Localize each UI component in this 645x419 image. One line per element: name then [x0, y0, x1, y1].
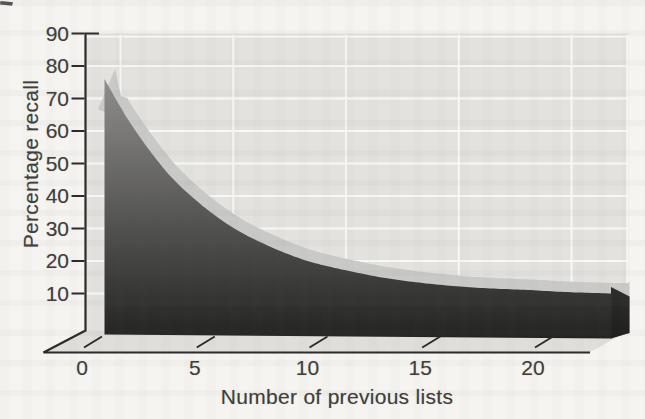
y-axis-title: Percentage recall [19, 74, 43, 254]
x-tick-label: 5 [171, 356, 219, 380]
x-tick-label: 15 [396, 356, 444, 380]
x-tick-label: 20 [509, 356, 557, 380]
x-axis-title: Number of previous lists [177, 385, 497, 409]
y-tick-label: 90 [27, 22, 69, 46]
x-tick-label: 10 [284, 356, 332, 380]
y-tick-label: 10 [27, 282, 69, 306]
scan-artifact-mark [0, 1, 13, 6]
x-tick-label: 0 [58, 356, 106, 380]
figure-container: 90807060504030201005101520 Percentage re… [0, 0, 645, 419]
